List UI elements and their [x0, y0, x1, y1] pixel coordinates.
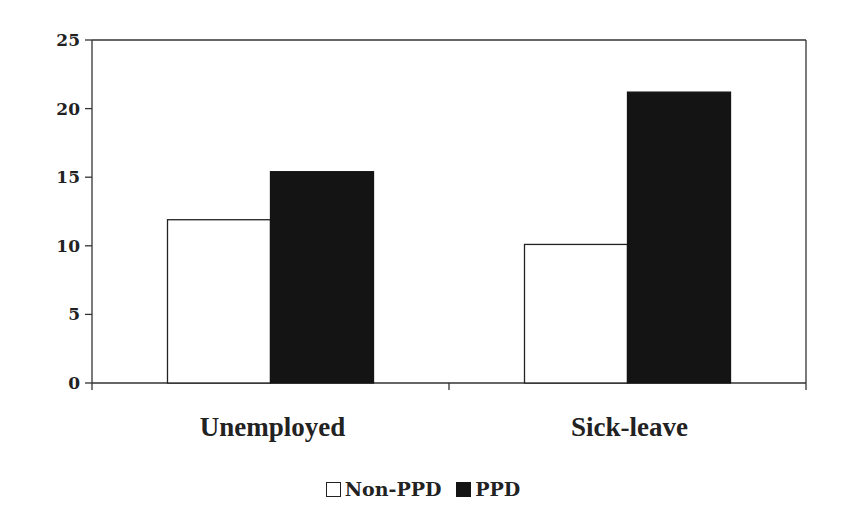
y-tick-label: 20	[56, 99, 80, 119]
legend-label-ppd: PPD	[475, 478, 520, 500]
x-axis: UnemployedSick-leave	[92, 383, 806, 442]
legend-swatch-ppd	[456, 482, 471, 497]
legend: Non-PPD PPD	[0, 478, 846, 501]
legend-swatch-non-ppd	[326, 482, 341, 497]
x-category-label: Sick-leave	[571, 412, 688, 442]
bar-chart: 0510152025 UnemployedSick-leave	[0, 0, 846, 470]
legend-item-non-ppd: Non-PPD	[326, 478, 442, 500]
y-tick-label: 10	[56, 236, 80, 256]
bars	[168, 92, 731, 383]
y-tick-label: 15	[56, 167, 80, 187]
bar-ppd-unemployed	[271, 172, 374, 383]
x-category-label: Unemployed	[200, 412, 346, 442]
y-tick-label: 0	[68, 373, 80, 393]
bar-ppd-sick-leave	[628, 92, 731, 383]
bar-non-ppd-sick-leave	[525, 244, 628, 383]
y-tick-label: 5	[68, 304, 80, 324]
y-axis: 0510152025	[56, 30, 92, 393]
y-tick-label: 25	[56, 30, 80, 50]
legend-label-non-ppd: Non-PPD	[345, 478, 442, 500]
bar-non-ppd-unemployed	[168, 220, 271, 383]
legend-item-ppd: PPD	[456, 478, 520, 500]
